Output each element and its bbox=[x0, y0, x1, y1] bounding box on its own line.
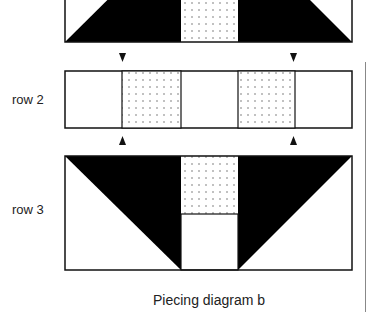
row-1-block bbox=[65, 0, 352, 42]
row-3-block bbox=[65, 156, 352, 270]
row-3-white-square bbox=[181, 214, 238, 270]
page-edge-line bbox=[365, 62, 366, 312]
diagram-caption: Piecing diagram b bbox=[153, 292, 265, 308]
arrow-up-left-icon bbox=[119, 136, 126, 145]
row-3-label: row 3 bbox=[12, 202, 44, 217]
arrow-down-left-icon bbox=[119, 53, 126, 62]
arrow-down-right-icon bbox=[290, 53, 297, 62]
row-2-label: row 2 bbox=[12, 92, 44, 107]
row-2-dotted-square-right bbox=[238, 71, 295, 128]
row-1-dotted-square bbox=[181, 0, 238, 42]
row-2-dotted-square-left bbox=[122, 71, 181, 128]
row-3-dotted-square bbox=[181, 156, 238, 214]
arrow-up-right-icon bbox=[290, 136, 297, 145]
piecing-diagram bbox=[0, 0, 367, 312]
row-2-block bbox=[65, 71, 352, 128]
